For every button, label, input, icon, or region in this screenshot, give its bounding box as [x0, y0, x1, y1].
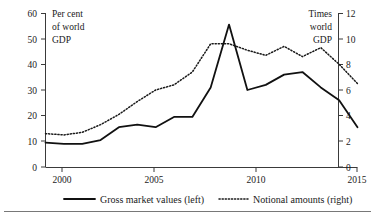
right-tick-label-12: 12: [346, 9, 356, 19]
right-axis-title: Times world GDP: [309, 9, 333, 45]
chart-figure: 60 50 40 30 20 10 0 12 10 8 6 4 2 0 2000…: [0, 0, 375, 214]
right-tick-label-6: 6: [346, 86, 351, 96]
right-tick-label-8: 8: [346, 60, 351, 70]
left-axis-title-line-3: GDP: [52, 35, 71, 45]
right-axis-title-line-1: Times: [309, 9, 333, 19]
left-tick-label-50: 50: [28, 35, 38, 45]
left-tick-label-0: 0: [32, 163, 37, 173]
right-tick-label-0: 0: [346, 163, 351, 173]
left-axis-title-line-1: Per cent: [52, 9, 83, 19]
right-axis-title-line-2: world: [310, 22, 332, 32]
left-tick-label-40: 40: [28, 60, 38, 70]
legend-label-gross-market-values: Gross market values (left): [100, 194, 204, 206]
left-tick-label-30: 30: [28, 86, 38, 96]
x-tick-label-2010: 2010: [247, 175, 266, 185]
left-axis-title-line-2: of world: [52, 22, 85, 32]
right-tick-label-10: 10: [346, 35, 356, 45]
left-tick-label-60: 60: [28, 9, 38, 19]
x-tick-label-2015: 2015: [348, 175, 367, 185]
x-tick-label-2000: 2000: [53, 175, 72, 185]
right-axis-title-line-3: GDP: [313, 35, 332, 45]
left-tick-label-10: 10: [28, 137, 38, 147]
legend-label-notional-amounts: Notional amounts (right): [253, 194, 352, 206]
x-tick-label-2005: 2005: [145, 175, 164, 185]
left-tick-label-20: 20: [28, 111, 38, 121]
right-tick-label-2: 2: [346, 137, 351, 147]
